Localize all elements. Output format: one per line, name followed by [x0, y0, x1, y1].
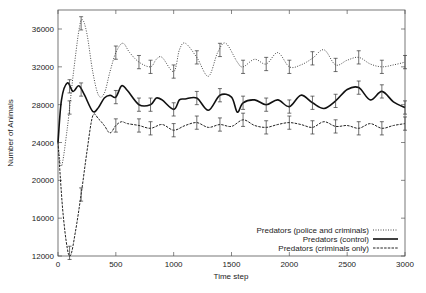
legend-label: Predators (police and criminals) — [257, 226, 370, 235]
y-tick-label: 36000 — [32, 25, 55, 34]
legend-label: Predators (criminals only) — [278, 244, 369, 253]
x-tick-label: 3000 — [396, 260, 414, 269]
x-tick-label: 500 — [109, 260, 123, 269]
error-bars — [68, 17, 407, 260]
y-tick-label: 20000 — [32, 176, 55, 185]
x-axis-label: Time step — [214, 272, 249, 281]
x-tick-label: 2000 — [280, 260, 298, 269]
legend-item-control: Predators (control) — [303, 235, 398, 244]
x-tick-label: 1000 — [165, 260, 183, 269]
y-tick-label: 24000 — [32, 139, 55, 148]
x-tick-label: 1500 — [223, 260, 241, 269]
x-tick-label: 0 — [56, 260, 61, 269]
legend-item-police-and-criminals: Predators (police and criminals) — [257, 226, 399, 235]
y-tick-label: 12000 — [32, 252, 55, 261]
line-chart: 0500100015002000250030001200016000200002… — [0, 0, 426, 293]
x-tick-label: 2500 — [338, 260, 356, 269]
y-tick-label: 16000 — [32, 214, 55, 223]
series-line-solid — [58, 83, 405, 143]
legend: Predators (police and criminals) Predato… — [257, 226, 399, 253]
series-line-dotted — [58, 19, 405, 166]
y-tick-label: 28000 — [32, 101, 55, 110]
legend-label: Predators (control) — [303, 235, 370, 244]
y-axis-label: Number of Animals — [6, 99, 15, 167]
series-layer — [58, 19, 405, 256]
legend-item-criminals-only: Predators (criminals only) — [278, 244, 398, 253]
y-tick-label: 32000 — [32, 63, 55, 72]
